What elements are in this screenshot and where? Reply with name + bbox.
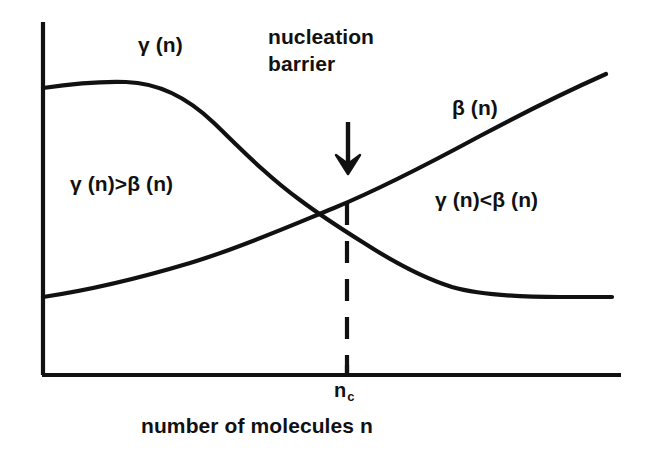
critical-size-tick-label: nc (334, 379, 354, 401)
nucleation-barrier-arrow (336, 122, 360, 174)
beta-curve-label: β (n) (452, 96, 498, 120)
critical-size-subscript: c (347, 389, 354, 404)
nucleation-barrier-line1: nucleation (268, 25, 374, 48)
gamma-less-than-beta-label: γ (n)<β (n) (435, 188, 538, 212)
nucleation-rate-figure: γ (n) β (n) nucleation barrier γ (n)>β (… (0, 0, 656, 453)
x-axis-title: number of molecules n (141, 414, 373, 438)
critical-size-base: n (334, 379, 346, 401)
gamma-curve-label: γ (n) (138, 33, 183, 57)
nucleation-barrier-line2: barrier (268, 52, 374, 76)
gamma-greater-than-beta-label: γ (n)>β (n) (70, 172, 173, 196)
nucleation-barrier-label: nucleation barrier (268, 25, 374, 75)
